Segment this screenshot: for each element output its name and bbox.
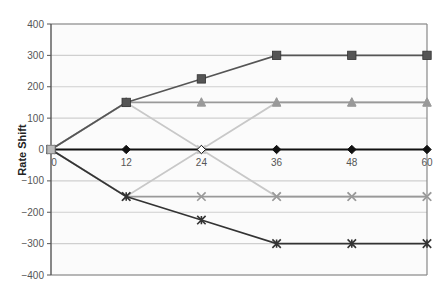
x-tick-label: 36 [271, 157, 283, 168]
y-tick-label: −400 [21, 270, 44, 281]
y-tick-label: −200 [21, 207, 44, 218]
y-tick-label: 300 [27, 50, 44, 61]
y-tick-label: −100 [21, 175, 44, 186]
y-axis-title: Rate Shift [16, 124, 28, 176]
y-tick-label: 100 [27, 113, 44, 124]
x-tick-label: 24 [196, 157, 208, 168]
line-chart: 4003002001000−100−200−300−400 0122436486… [0, 0, 448, 291]
x-tick-label: 0 [51, 157, 57, 168]
y-tick-label: 400 [27, 19, 44, 30]
y-tick-label: −300 [21, 238, 44, 249]
x-tick-label: 48 [346, 157, 358, 168]
y-tick-label: 200 [27, 81, 44, 92]
x-tick-label: 12 [121, 157, 133, 168]
y-tick-label: 0 [38, 144, 44, 155]
x-tick-label: 60 [421, 157, 433, 168]
